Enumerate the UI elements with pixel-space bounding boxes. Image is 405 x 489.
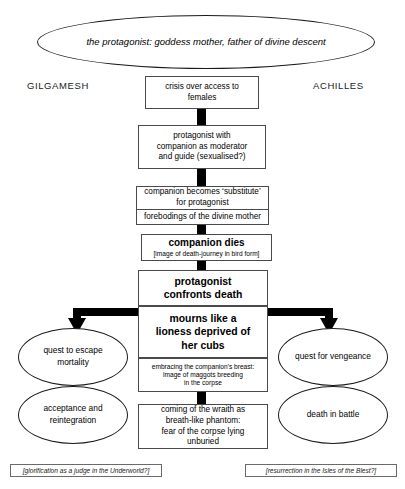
node-acceptance-line-2: and (89, 403, 103, 413)
node-mourns-line-2: lioness deprived of (156, 325, 251, 338)
node-protagonist-ellipse: the protagonist: goddess mother, father … (37, 15, 375, 69)
node-substitute-line-1: companion becomes ‘substitute’ (144, 187, 261, 198)
node-companion-becomes-substitute: companion becomes ‘substitute’ for prota… (136, 186, 269, 210)
node-quest-to-escape-mortality: quest to escape mortality (18, 328, 128, 386)
heading-achilles: ACHILLES (313, 80, 364, 91)
node-protagonist-line-2: goddess mother, father of divine descent (155, 36, 326, 47)
node-quest-escape-text: quest to escape mortality (19, 345, 127, 368)
node-companion-line-1: protagonist with (173, 131, 230, 142)
node-quest-vengeance-line-2: vengeance (330, 351, 371, 361)
node-companion-line-3: and guide (sexualised?) (159, 152, 246, 163)
caption-underworld-glorification: [glorification as a judge in the Underwo… (10, 464, 162, 477)
connector-forebodings-to-companion-dies (197, 225, 206, 234)
node-companion-dies: companion dies [image of death-journey i… (141, 234, 272, 261)
node-death-in-battle: death in battle (278, 386, 388, 444)
node-embracing-line-1: embracing the companion’s breast: (152, 363, 255, 371)
node-quest-for-vengeance: quest for vengeance (278, 328, 388, 386)
node-crisis-line-2: females (188, 93, 217, 104)
node-protagonist-text: the protagonist: goddess mother, father … (86, 36, 325, 49)
branch-arrow-right-path (266, 312, 329, 320)
node-quest-escape-line-1: quest to (43, 345, 73, 355)
node-crisis-over-access: crisis over access to females (145, 76, 259, 109)
diagram-canvas: the protagonist: goddess mother, father … (0, 0, 405, 489)
connector-embracing-to-wraith (197, 392, 206, 404)
node-coming-of-the-wraith: coming of the wraith as breath-like phan… (138, 404, 268, 449)
connector-companion-dies-to-confronts-death (197, 261, 206, 270)
node-quest-escape-line-3: mortality (57, 357, 89, 367)
node-embracing-line-2: image of maggots breeding (163, 371, 243, 379)
node-substitute-line-2: for protagonist (176, 198, 228, 209)
node-acceptance-line-3: reintegration (50, 415, 97, 425)
node-quest-vengeance-text: quest for vengeance (287, 351, 379, 363)
node-death-in-battle-line-1: death in battle (307, 409, 360, 419)
node-embracing-companions-breast: embracing the companion’s breast: image … (138, 358, 268, 392)
node-acceptance-text: acceptance and reintegration (19, 403, 127, 426)
node-forebodings-line-1: forebodings of the divine mother (144, 212, 261, 223)
heading-gilgamesh: GILGAMESH (27, 80, 89, 91)
node-crisis-line-1: crisis over access to (165, 82, 239, 93)
node-wraith-line-1: coming of the wraith as (161, 405, 245, 416)
connector-crisis-to-companion (197, 109, 206, 125)
node-companion-dies-line-1: companion dies (168, 237, 244, 250)
node-quest-vengeance-line-1: quest for (295, 351, 328, 361)
connector-companion-to-substitute (197, 169, 206, 186)
node-embracing-line-3: in the corpse (184, 379, 222, 387)
node-death-in-battle-text: death in battle (299, 409, 368, 421)
node-forebodings-of-divine-mother: forebodings of the divine mother (136, 209, 269, 225)
node-protagonist-with-companion: protagonist with companion as moderator … (138, 125, 266, 169)
node-confronts-line-1: protagonist (174, 275, 231, 288)
node-mourns-line-3: her cubs (181, 339, 224, 352)
node-companion-dies-line-2: [image of death-journey in bird form] (154, 250, 260, 258)
node-wraith-line-2: breath-like phantom: (166, 416, 241, 427)
node-protagonist-line-1: the protagonist: (86, 36, 152, 47)
caption-isles-of-the-blest: [resurrection in the Isles of the Blest?… (245, 464, 397, 477)
node-wraith-line-4: unburied (187, 437, 219, 448)
node-mourns-like-a-lioness: mourns like a lioness deprived of her cu… (138, 306, 268, 358)
node-mourns-line-1: mourns like a (170, 312, 237, 325)
node-acceptance-and-reintegration: acceptance and reintegration (18, 386, 128, 444)
branch-arrow-left-path (77, 312, 140, 320)
node-wraith-line-3: fear of the corpse lying (162, 427, 245, 438)
node-acceptance-line-1: acceptance (43, 403, 86, 413)
node-companion-line-2: companion as moderator (157, 142, 248, 153)
node-quest-escape-line-2: escape (76, 345, 103, 355)
